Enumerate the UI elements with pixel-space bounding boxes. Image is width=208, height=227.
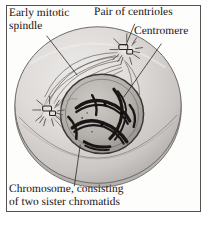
centriole-c bbox=[43, 106, 52, 111]
label-early-mitotic-spindle: Early mitotic spindle bbox=[9, 7, 69, 32]
centriole-d bbox=[50, 111, 56, 115]
label-centromere: Centromere bbox=[134, 25, 188, 38]
centriole-b bbox=[127, 50, 133, 54]
label-chromosome-sister-chromatids: Chromosome, consisting of two sister chr… bbox=[9, 183, 123, 209]
label-pair-of-centrioles: Pair of centrioles bbox=[94, 6, 173, 19]
centriole-a bbox=[119, 45, 128, 50]
figure-root: Early mitotic spindle Pair of centrioles… bbox=[0, 0, 208, 227]
